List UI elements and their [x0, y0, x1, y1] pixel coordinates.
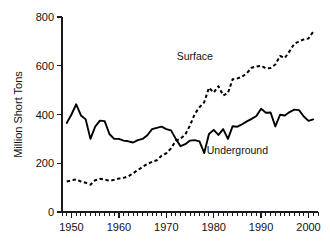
annotation-underground: Underground	[207, 144, 268, 156]
annotation-surface: Surface	[177, 50, 213, 62]
y-axis-title-group: Million Short Tons	[12, 71, 24, 158]
y-tick-label-400: 400	[36, 109, 54, 121]
x-tick-label-1960: 1960	[107, 221, 131, 233]
line-chart: 0200400600800195019601970198019902000 Su…	[0, 0, 330, 244]
y-axis-title: Million Short Tons	[12, 71, 24, 158]
y-tick-label-600: 600	[36, 60, 54, 72]
series-line-underground	[67, 104, 314, 153]
x-tick-label-1970: 1970	[154, 221, 178, 233]
x-tick-label-2000: 2000	[296, 221, 320, 233]
x-tick-label-1950: 1950	[59, 221, 83, 233]
chart-container: 0200400600800195019601970198019902000 Su…	[0, 0, 330, 244]
y-tick-label-800: 800	[36, 11, 54, 23]
x-tick-label-1980: 1980	[201, 221, 225, 233]
x-tick-label-1990: 1990	[249, 221, 273, 233]
y-tick-label-0: 0	[48, 206, 54, 218]
y-tick-label-200: 200	[36, 157, 54, 169]
